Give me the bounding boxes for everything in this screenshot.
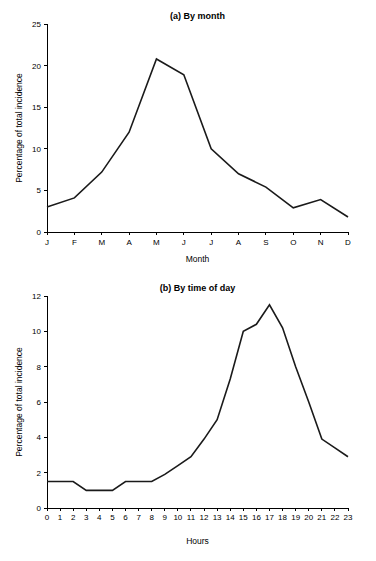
x-tick-label: 16 (252, 513, 261, 522)
x-tick-label: 5 (110, 513, 115, 522)
x-tick-label: N (318, 238, 324, 247)
y-tick-label: 5 (37, 186, 42, 195)
y-axis-title: Percentage of total incidence (14, 347, 24, 457)
x-tick-label: 15 (239, 513, 248, 522)
x-tick-label: 2 (71, 513, 76, 522)
y-tick-label: 6 (37, 398, 42, 407)
x-tick-label: 9 (163, 513, 168, 522)
x-tick-label: 0 (45, 513, 50, 522)
x-tick-label: M (98, 238, 105, 247)
x-tick-label: 12 (200, 513, 209, 522)
data-series-line (47, 59, 348, 217)
y-tick-label: 12 (32, 292, 41, 301)
x-tick-label: 8 (149, 513, 154, 522)
x-axis-title: Hours (186, 536, 209, 546)
x-tick-label: J (45, 238, 49, 247)
y-tick-label: 0 (37, 504, 42, 513)
y-tick-label: 20 (32, 62, 41, 71)
x-tick-label: 10 (173, 513, 182, 522)
x-tick-label: 1 (58, 513, 63, 522)
x-tick-label: 11 (187, 513, 196, 522)
y-tick-label: 10 (32, 327, 41, 336)
chart-title: (b) By time of day (160, 283, 236, 293)
data-series-line (47, 305, 348, 491)
y-axis-title: Percentage of total incidence (14, 73, 24, 183)
x-tick-label: J (209, 238, 213, 247)
x-tick-label: 22 (330, 513, 339, 522)
x-tick-label: 19 (291, 513, 300, 522)
x-tick-label: A (126, 238, 132, 247)
chart-by-time-of-day: (b) By time of day0246810120123456789101… (0, 272, 376, 561)
figure-page: (a) By month0510152025JFMAMJJASONDMonthP… (0, 0, 376, 561)
chart-panel-by-time-of-day: (b) By time of day0246810120123456789101… (0, 272, 376, 561)
y-tick-label: 0 (37, 228, 42, 237)
y-tick-label: 10 (32, 145, 41, 154)
x-tick-label: A (236, 238, 242, 247)
x-tick-label: 23 (344, 513, 353, 522)
x-tick-label: F (72, 238, 77, 247)
x-tick-label: J (182, 238, 186, 247)
chart-panel-by-month: (a) By month0510152025JFMAMJJASONDMonthP… (0, 0, 376, 272)
chart-by-month: (a) By month0510152025JFMAMJJASONDMonthP… (0, 0, 376, 272)
x-tick-label: 4 (97, 513, 102, 522)
x-tick-label: S (263, 238, 268, 247)
y-tick-label: 4 (37, 433, 42, 442)
y-tick-label: 15 (32, 103, 41, 112)
x-tick-label: 17 (265, 513, 274, 522)
x-tick-label: 20 (304, 513, 313, 522)
x-tick-label: 13 (213, 513, 222, 522)
y-tick-label: 2 (37, 469, 42, 478)
y-tick-label: 8 (37, 363, 42, 372)
chart-title: (a) By month (170, 11, 225, 21)
x-tick-label: 18 (278, 513, 287, 522)
x-tick-label: 7 (136, 513, 141, 522)
x-tick-label: 6 (123, 513, 128, 522)
x-tick-label: D (345, 238, 351, 247)
x-axis-title: Month (186, 254, 210, 264)
x-tick-label: M (153, 238, 160, 247)
x-tick-label: 3 (84, 513, 89, 522)
x-tick-label: 14 (226, 513, 235, 522)
y-tick-label: 25 (32, 20, 41, 29)
x-tick-label: 21 (317, 513, 326, 522)
x-tick-label: O (290, 238, 296, 247)
